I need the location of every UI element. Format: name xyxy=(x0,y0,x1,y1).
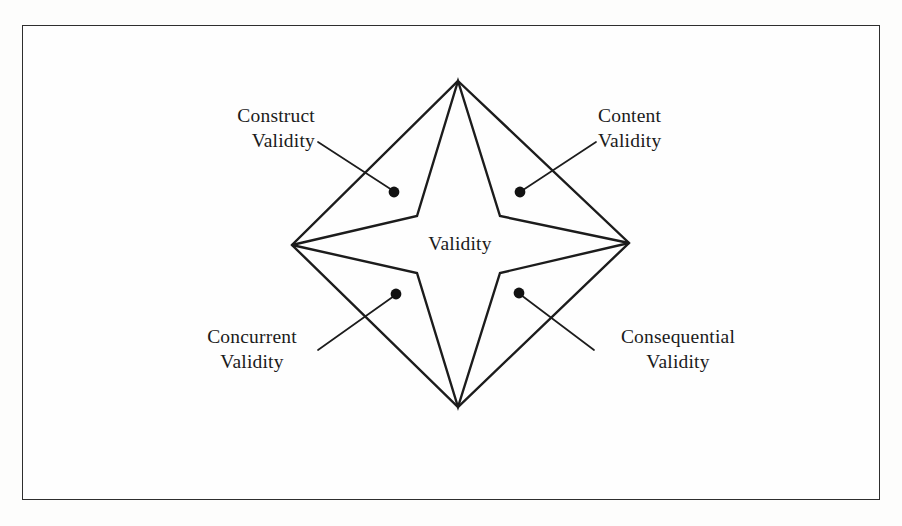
label-content-validity: Content Validity xyxy=(598,103,748,153)
label-center-validity: Validity xyxy=(395,231,525,256)
label-concurrent-line1: Concurrent xyxy=(182,324,322,349)
label-consequential-line1: Consequential xyxy=(588,324,768,349)
label-construct-line1: Construct xyxy=(185,103,315,128)
label-consequential-line2: Validity xyxy=(588,349,768,374)
leader-line-consequential xyxy=(521,295,594,350)
node-dot-concurrent xyxy=(391,289,402,300)
label-content-line2: Validity xyxy=(598,128,748,153)
node-dot-construct xyxy=(389,187,400,198)
figure-page: Construct Validity Content Validity Conc… xyxy=(0,0,902,526)
node-dot-consequential xyxy=(514,288,525,299)
leader-line-concurrent xyxy=(318,296,394,350)
label-concurrent-line2: Validity xyxy=(182,349,322,374)
validity-star-diagram xyxy=(0,0,902,526)
label-construct-validity: Construct Validity xyxy=(185,103,315,153)
leader-line-content xyxy=(523,142,596,190)
label-construct-line2: Validity xyxy=(185,128,315,153)
label-consequential-validity: Consequential Validity xyxy=(588,324,768,374)
node-dot-content xyxy=(515,187,526,198)
label-concurrent-validity: Concurrent Validity xyxy=(182,324,322,374)
label-content-line1: Content xyxy=(598,103,748,128)
